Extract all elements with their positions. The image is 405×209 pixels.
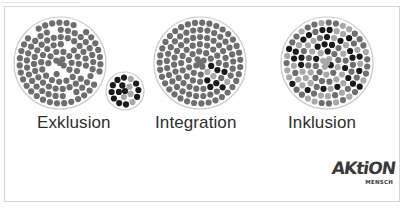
person-dot	[75, 96, 81, 102]
person-dot	[49, 20, 55, 26]
person-dot	[294, 87, 300, 93]
person-dot	[220, 48, 226, 54]
person-dot	[34, 83, 40, 89]
person-dot	[24, 57, 30, 63]
person-dot	[323, 72, 329, 78]
person-dot	[69, 60, 75, 66]
person-dot	[79, 85, 85, 91]
person-dot	[172, 28, 178, 34]
person-dot	[305, 62, 311, 68]
person-dot	[121, 94, 127, 100]
person-dot	[45, 60, 51, 66]
person-dot	[191, 100, 197, 106]
person-dot	[121, 75, 127, 81]
person-dot	[333, 76, 339, 82]
person-dot	[159, 74, 165, 80]
person-dot	[345, 86, 351, 92]
person-dot	[87, 45, 93, 51]
person-dot	[197, 60, 203, 66]
person-dot	[340, 31, 346, 37]
person-dot	[174, 84, 180, 90]
person-dot	[31, 61, 37, 67]
person-dot	[319, 27, 325, 33]
person-dot	[180, 53, 186, 59]
person-dot	[332, 92, 338, 98]
person-dot	[334, 84, 340, 90]
person-dot	[305, 96, 311, 102]
person-dot	[32, 68, 38, 74]
person-dot	[157, 60, 163, 66]
person-dot	[18, 70, 24, 76]
person-dot	[18, 48, 24, 54]
person-dot	[166, 86, 172, 92]
person-dot	[214, 89, 220, 95]
person-dot	[211, 30, 217, 36]
person-dot	[313, 56, 319, 62]
person-dot	[343, 58, 349, 64]
person-dot	[299, 82, 305, 88]
person-dot	[213, 23, 219, 29]
person-dot	[348, 69, 354, 75]
person-dot	[47, 99, 53, 105]
person-dot	[75, 54, 81, 60]
person-dot	[284, 67, 290, 73]
person-dot	[357, 36, 363, 42]
person-dot	[67, 84, 73, 90]
person-dot	[17, 55, 23, 61]
person-dot	[111, 95, 117, 101]
person-dot	[334, 28, 340, 34]
person-dot	[225, 89, 231, 95]
person-dot	[313, 63, 319, 69]
person-dot	[39, 66, 45, 72]
person-dot	[32, 54, 38, 60]
person-dot	[84, 79, 90, 85]
person-dot	[178, 60, 184, 66]
person-dot	[116, 89, 122, 95]
person-dot	[320, 86, 326, 92]
person-dot	[83, 55, 89, 61]
person-dot	[219, 94, 225, 100]
person-dot	[349, 55, 355, 61]
person-dot	[135, 87, 141, 93]
person-dot	[186, 91, 192, 97]
person-dot	[21, 41, 27, 47]
person-dot	[35, 74, 41, 80]
person-dot	[44, 46, 50, 52]
person-dot	[80, 49, 86, 55]
person-dot	[301, 48, 307, 54]
person-dot	[225, 31, 231, 37]
person-dot	[198, 72, 204, 78]
person-dot	[204, 77, 210, 83]
person-dot	[306, 32, 312, 38]
person-dot	[162, 80, 168, 86]
person-dot	[166, 72, 172, 78]
person-dot	[308, 69, 314, 75]
person-dot	[347, 48, 353, 54]
person-dot	[236, 50, 242, 56]
person-dot	[174, 48, 180, 54]
person-dot	[40, 52, 46, 58]
person-dot	[58, 34, 64, 40]
person-dot	[25, 50, 31, 56]
person-dot	[66, 67, 72, 73]
person-dot	[223, 62, 229, 68]
person-dot	[66, 53, 72, 59]
person-dot	[356, 68, 362, 74]
person-dot	[109, 89, 115, 95]
person-dot	[133, 80, 139, 86]
person-dot	[184, 98, 190, 104]
label-integration: Integration	[155, 113, 236, 133]
person-dot	[72, 30, 78, 36]
person-dot	[319, 100, 325, 106]
person-dot	[210, 47, 216, 53]
label-exclusion: Exklusion	[37, 113, 111, 133]
person-dot	[335, 64, 341, 70]
person-dot	[44, 29, 50, 35]
person-dot	[95, 47, 101, 53]
person-dot	[90, 66, 96, 72]
person-dot	[300, 37, 306, 43]
person-dot	[56, 20, 62, 26]
person-dot	[333, 99, 339, 105]
aktion-mensch-logo: AKtiON MENSCH	[325, 158, 395, 194]
person-dot	[83, 29, 89, 35]
